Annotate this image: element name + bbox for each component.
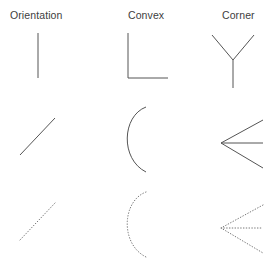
stimulus-cell-c-arc	[95, 103, 188, 189]
stimulus-cell-diagonal-line-dotted	[0, 188, 93, 271]
stimulus-grid	[0, 0, 278, 271]
stimulus-cell-y-junction	[190, 25, 278, 111]
c-arc-path	[127, 107, 146, 172]
right-angle-L-path	[128, 33, 168, 78]
stimulus-cell-vertical-line	[0, 25, 93, 111]
diagonal-line-dotted-path	[20, 203, 55, 240]
stimulus-cell-diagonal-line	[0, 103, 93, 189]
stimulus-cell-right-angle-L	[95, 25, 188, 111]
stimulus-cell-arrow-junction	[190, 103, 278, 189]
diagonal-line-path	[20, 118, 55, 155]
stimulus-cell-c-arc-dotted	[95, 188, 188, 271]
figure-root: Orientation Convex Corner	[0, 0, 278, 271]
arrow-junction-path	[221, 120, 263, 168]
c-arc-dotted-path	[127, 192, 146, 257]
y-junction-path	[212, 35, 254, 88]
stimulus-cell-arrow-junction-dotted	[190, 188, 278, 271]
arrow-junction-dotted-path	[221, 205, 263, 253]
